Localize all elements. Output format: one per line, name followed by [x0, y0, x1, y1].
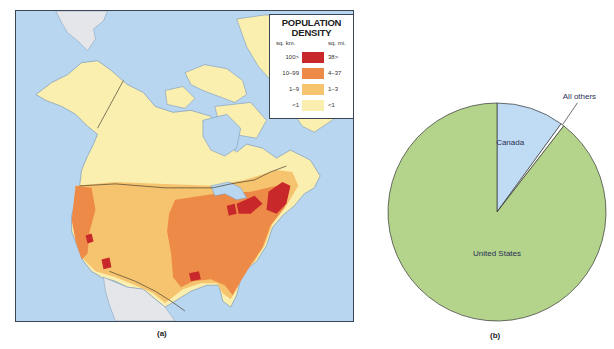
- pie-label-canada: Canada: [496, 138, 525, 147]
- arctic-islands: [185, 65, 247, 103]
- legend-km-label: <1: [292, 102, 299, 108]
- legend-row: 1–9 1–3: [270, 84, 353, 96]
- caption-b: (b): [490, 331, 500, 340]
- legend-swatch: [302, 68, 324, 79]
- legend-swatch: [302, 84, 324, 95]
- population-density-map: POPULATION DENSITY sq. km. sq. mi. 100> …: [15, 10, 354, 322]
- legend-swatch: [302, 100, 324, 111]
- legend-title: POPULATION DENSITY: [270, 18, 353, 38]
- legend-row: <1 <1: [270, 100, 353, 112]
- pie-label-united-states: United States: [473, 249, 521, 258]
- all-others-leader-line: [562, 103, 577, 125]
- legend-mi-label: <1: [328, 102, 335, 108]
- legend-unit-km: sq. km.: [276, 40, 295, 46]
- pie-label-all-others: All others: [563, 92, 596, 101]
- legend-km-label: 10–99: [282, 70, 299, 76]
- legend-row: 10–99 4–37: [270, 68, 353, 80]
- pie-chart: Canada All others United States: [380, 90, 614, 330]
- russia-landmass: [56, 11, 108, 51]
- legend-title-line2: DENSITY: [270, 28, 353, 38]
- legend-km-label: 1–9: [289, 86, 299, 92]
- legend-unit-mi: sq. mi.: [328, 40, 346, 46]
- legend-km-label: 100>: [285, 54, 299, 60]
- legend-swatch: [302, 52, 324, 63]
- pie-slice-united-states: [388, 103, 606, 321]
- legend-row: 100> 38>: [270, 52, 353, 64]
- legend-mi-label: 4–37: [328, 70, 341, 76]
- pie-slices: [388, 103, 606, 321]
- map-legend: POPULATION DENSITY sq. km. sq. mi. 100> …: [269, 14, 354, 119]
- legend-mi-label: 38>: [328, 54, 338, 60]
- caption-a: (a): [157, 329, 167, 338]
- legend-mi-label: 1–3: [328, 86, 338, 92]
